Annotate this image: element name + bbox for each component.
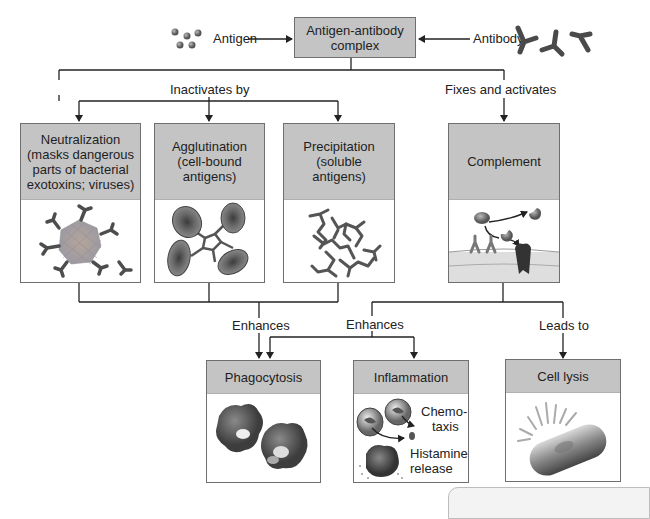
histamine-label-1: Histamine bbox=[410, 446, 468, 461]
cell-lysis-title: Cell lysis bbox=[537, 369, 588, 384]
phagocytes-icon bbox=[207, 394, 320, 482]
precipitation-desc-2: antigens) bbox=[303, 169, 375, 184]
complement-box: Complement bbox=[448, 123, 560, 283]
cell-lysis-box: Cell lysis bbox=[505, 359, 621, 482]
agglutination-desc-1: (cell-bound bbox=[172, 154, 247, 169]
neutralization-desc-2: parts of bacterial bbox=[27, 162, 135, 177]
precipitation-title: Precipitation bbox=[303, 139, 375, 154]
fixes-and-activates-label: Fixes and activates bbox=[445, 82, 556, 97]
agglutination-title: Agglutination bbox=[172, 139, 247, 154]
enhances-label-right: Enhances bbox=[346, 317, 404, 332]
virus-with-antibodies-icon bbox=[21, 200, 140, 282]
complex-label-line2: complex bbox=[306, 38, 404, 53]
corner-tab-decoration bbox=[448, 487, 650, 519]
precipitation-box: Precipitation (soluble antigens) bbox=[283, 123, 395, 283]
enhances-label-left: Enhances bbox=[232, 318, 290, 333]
lysing-bacterium-icon bbox=[506, 393, 620, 481]
neutralization-desc-1: (masks dangerous bbox=[27, 147, 135, 162]
complex-label-line1: Antigen-antibody bbox=[306, 23, 404, 38]
inactivates-by-label: Inactivates by bbox=[170, 82, 250, 97]
neutralization-desc-3: exotoxins; viruses) bbox=[27, 177, 135, 192]
antigen-label: Antigen bbox=[213, 31, 257, 46]
inflammation-title: Inflammation bbox=[374, 370, 448, 385]
phagocytosis-title: Phagocytosis bbox=[225, 370, 302, 385]
chemotaxis-label-1: Chemo- bbox=[421, 404, 467, 419]
agglutination-desc-2: antigens) bbox=[172, 169, 247, 184]
complement-membrane-icon bbox=[449, 200, 559, 282]
leads-to-label: Leads to bbox=[539, 318, 589, 333]
precipitation-desc-1: (soluble bbox=[303, 154, 375, 169]
neutralization-title: Neutralization bbox=[27, 132, 135, 147]
antibody-y-icon bbox=[512, 22, 602, 58]
antibody-lattice-icon bbox=[284, 200, 394, 282]
neutralization-box: Neutralization (masks dangerous parts of… bbox=[20, 123, 141, 283]
agglutinated-cells-icon bbox=[155, 200, 264, 282]
antigen-antibody-complex-node: Antigen-antibody complex bbox=[294, 17, 416, 58]
antigen-particles-icon bbox=[170, 26, 206, 52]
complement-title: Complement bbox=[467, 154, 541, 169]
chemotaxis-label-2: taxis bbox=[432, 419, 459, 434]
agglutination-box: Agglutination (cell-bound antigens) bbox=[154, 123, 265, 283]
histamine-label-2: release bbox=[410, 461, 453, 476]
inflammation-box: Inflammation Chemo- taxis Histamine rele… bbox=[353, 360, 469, 483]
phagocytosis-box: Phagocytosis bbox=[206, 360, 321, 483]
